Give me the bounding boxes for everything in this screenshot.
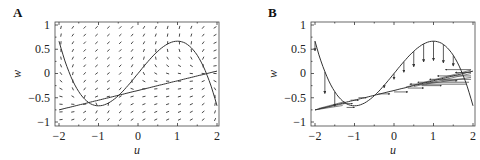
arrow (132, 72, 133, 75)
arrow (131, 104, 134, 105)
arrow (107, 57, 109, 59)
arrow (119, 88, 121, 91)
arrow (214, 88, 216, 91)
arrow (202, 96, 205, 98)
arrow (202, 34, 204, 37)
arrow (119, 34, 121, 36)
arrow (95, 65, 97, 67)
arrow (144, 57, 145, 60)
cubic-nullcline (59, 41, 217, 106)
y-axis-label: w (10, 70, 24, 78)
arrow (72, 26, 74, 29)
arrow (107, 96, 110, 97)
arrow (215, 110, 216, 113)
arrow (107, 49, 109, 51)
arrow (72, 96, 75, 98)
arrow (60, 80, 62, 82)
arrow (154, 104, 157, 105)
arrow (155, 65, 157, 68)
arrow (166, 96, 169, 97)
arrow (202, 88, 205, 90)
arrow (95, 88, 98, 90)
arrow (154, 96, 157, 97)
arrow (119, 65, 121, 67)
arrow (61, 34, 62, 37)
arrow (143, 26, 145, 29)
arrow (166, 119, 169, 120)
arrow (167, 26, 168, 29)
arrow (72, 34, 74, 37)
arrow (190, 104, 193, 105)
arrow (155, 41, 156, 44)
arrow (84, 49, 86, 51)
arrow (107, 42, 109, 44)
arrow (178, 104, 181, 105)
arrow (131, 49, 133, 52)
x-tick: −2 (53, 129, 66, 143)
arrow (178, 89, 181, 90)
x-tick: 0 (391, 129, 397, 143)
arrow (143, 34, 145, 37)
arrow (155, 34, 156, 37)
y-tick: 0 (300, 66, 306, 80)
arrow (95, 34, 97, 36)
arrow (96, 118, 98, 121)
arrow (203, 57, 204, 60)
arrow (84, 72, 86, 74)
arrow (119, 80, 121, 82)
arrow (202, 111, 205, 113)
y-tick: −0.5 (28, 91, 50, 105)
x-tick: 0 (135, 129, 141, 143)
arrow (84, 26, 86, 28)
arrow (84, 34, 86, 36)
arrow (131, 57, 133, 60)
arrow (155, 26, 156, 29)
arrow (214, 42, 217, 43)
arrow (213, 66, 216, 67)
x-tick: −1 (92, 129, 105, 143)
arrow (143, 49, 144, 52)
arrow (84, 57, 86, 59)
arrow (167, 49, 168, 52)
y-tick: 0 (44, 66, 50, 80)
arrow (179, 49, 180, 52)
arrow (119, 42, 121, 44)
arrow (84, 80, 86, 83)
arrow (142, 104, 145, 105)
arrow (167, 34, 168, 37)
arrow (107, 80, 110, 82)
arrow (131, 26, 133, 28)
arrow (178, 119, 181, 120)
arrow (95, 57, 97, 59)
arrow (214, 34, 217, 36)
arrow (84, 88, 86, 91)
arrow (202, 103, 205, 105)
arrow (60, 72, 62, 75)
arrow (119, 72, 121, 74)
arrow (72, 57, 73, 60)
arrow (84, 65, 86, 67)
arrow (107, 34, 109, 36)
arrow (107, 26, 109, 28)
arrow (119, 111, 121, 113)
y-axis-label: w (266, 70, 280, 78)
arrow (154, 81, 157, 82)
arrow (202, 42, 204, 45)
arrow (202, 26, 204, 29)
y-tick: 0.5 (291, 42, 306, 56)
arrow (131, 111, 134, 113)
arrow (154, 73, 157, 75)
arrow (119, 26, 121, 28)
arrow (95, 80, 98, 82)
arrow (202, 119, 205, 121)
arrow (95, 42, 97, 44)
arrow (179, 26, 180, 29)
y-tick: 0.5 (35, 42, 50, 56)
arrow (156, 57, 157, 60)
y-tick: 1 (300, 18, 306, 32)
arrow (71, 119, 74, 120)
panel-b-label: B (268, 5, 277, 20)
arrow (61, 57, 62, 60)
x-axis-label: u (390, 143, 396, 157)
arrow (190, 88, 193, 89)
